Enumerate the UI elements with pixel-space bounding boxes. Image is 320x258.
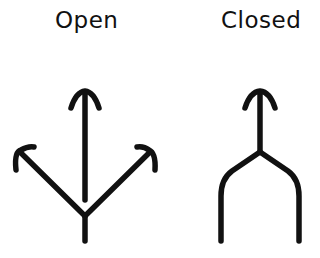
open-diagram [16, 91, 156, 241]
closed-right-leg [260, 152, 299, 241]
diagram-graphics [0, 0, 320, 258]
closed-left-leg [221, 152, 260, 241]
diagram-canvas: Open Closed [0, 0, 320, 258]
closed-diagram [221, 91, 299, 241]
open-left-arrow-shaft [20, 152, 85, 216]
open-right-arrow-shaft [85, 152, 150, 216]
